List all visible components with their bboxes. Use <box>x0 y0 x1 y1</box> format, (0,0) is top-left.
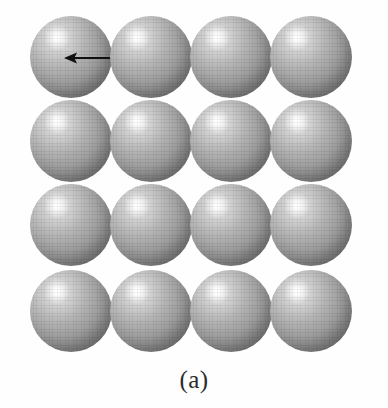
figure-caption: (a) <box>0 366 388 394</box>
atom-sphere-r2-c3 <box>270 184 352 266</box>
atom-sphere-r0-c1 <box>110 16 192 98</box>
atom-sphere-r1-c3 <box>270 100 352 182</box>
atom-sphere-r1-c0 <box>30 100 112 182</box>
atom-sphere-r1-c1 <box>110 100 192 182</box>
atom-sphere-r1-c2 <box>190 100 272 182</box>
atom-sphere-r2-c0 <box>30 184 112 266</box>
atom-sphere-r3-c2 <box>190 270 272 352</box>
atom-sphere-r2-c2 <box>190 184 272 266</box>
atom-sphere-r2-c1 <box>110 184 192 266</box>
atom-sphere-r3-c1 <box>110 270 192 352</box>
atom-sphere-r0-c2 <box>190 16 272 98</box>
atom-sphere-r0-c0 <box>30 16 112 98</box>
sphere-grid <box>30 16 352 356</box>
atom-sphere-r3-c3 <box>270 270 352 352</box>
atom-sphere-r3-c0 <box>30 270 112 352</box>
atom-sphere-r0-c3 <box>270 16 352 98</box>
figure-root: (a) <box>0 0 388 408</box>
